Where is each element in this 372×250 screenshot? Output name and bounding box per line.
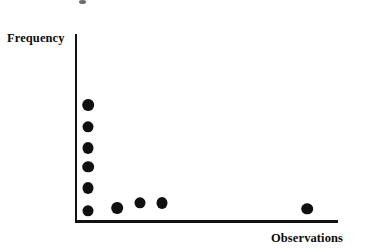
x-axis-label: Observations xyxy=(271,232,343,245)
data-point xyxy=(301,203,313,214)
data-point xyxy=(83,182,94,194)
data-point xyxy=(82,161,94,172)
data-point xyxy=(83,121,94,132)
data-point xyxy=(135,197,146,208)
data-point xyxy=(157,197,168,209)
data-point xyxy=(82,99,94,111)
data-point xyxy=(111,202,123,214)
x-axis-line xyxy=(75,220,338,223)
y-axis-label: Frequency xyxy=(7,32,65,45)
data-point xyxy=(83,142,94,154)
y-axis-line xyxy=(75,34,77,223)
dot-plot-figure: Frequency Observations xyxy=(0,0,372,250)
cropped-text-artifact xyxy=(79,0,86,4)
data-point xyxy=(83,205,94,216)
